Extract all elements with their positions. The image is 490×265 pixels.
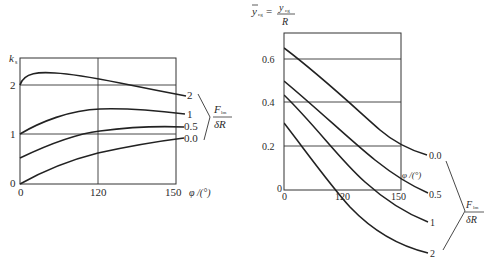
- right-curve-label-0-0: 0.0: [429, 150, 442, 161]
- left-ytick-2: 2: [10, 79, 16, 91]
- right-curve-1: [284, 95, 428, 222]
- right-legend-bracket: [443, 161, 465, 250]
- right-ylabel-numerator: y: [278, 2, 284, 13]
- left-xlabel: φ /(°): [189, 187, 211, 199]
- right-curve-label-2: 2: [430, 248, 435, 259]
- left-curve-0-5: [20, 127, 184, 158]
- right-ytick-0-2: 0.2: [262, 141, 275, 152]
- left-legend-denominator: δR: [214, 118, 226, 130]
- left-legend-bracket: [198, 94, 210, 140]
- right-ytick-0-6: 0.6: [262, 54, 275, 65]
- right-curve-label-0-5: 0.5: [429, 189, 442, 200]
- right-chart: y cg = y cg R 0.6 0.4 0.2 0 0 120 150 φ …: [251, 2, 484, 259]
- right-ylabel-equals: =: [266, 5, 272, 17]
- figure-canvas: k s 2 1 0 0 120 150 φ /(°) 2 1 0.5 0.0 F…: [0, 0, 490, 265]
- left-xtick-120: 120: [90, 186, 107, 198]
- left-legend-numerator: F: [213, 103, 221, 115]
- left-xtick-150: 150: [165, 186, 182, 198]
- right-legend-numerator-sub: lm: [473, 205, 478, 210]
- right-legend-numerator: F: [465, 199, 473, 210]
- right-curve-label-1: 1: [430, 217, 435, 228]
- left-curve-label-0-5: 0.5: [184, 120, 198, 132]
- right-ylabel-denominator: R: [281, 16, 288, 27]
- left-legend-numerator-sub: lm: [221, 110, 226, 115]
- right-ytick-0-4: 0.4: [262, 97, 275, 108]
- right-ylabel-numerator-sub: cg: [285, 8, 290, 13]
- right-legend-denominator: δR: [466, 214, 477, 225]
- right-curve-2: [284, 123, 428, 253]
- right-xlabel: φ /(°): [402, 170, 421, 180]
- right-curve-0-0: [284, 48, 427, 155]
- right-ylabel-lhs-sub: cg: [258, 12, 263, 17]
- left-curve-label-1: 1: [187, 108, 193, 120]
- left-curve-label-2: 2: [187, 89, 193, 101]
- left-ytick-1: 1: [10, 128, 16, 140]
- left-ylabel-sub: s: [15, 59, 18, 65]
- left-chart: k s 2 1 0 0 120 150 φ /(°) 2 1 0.5 0.0 F…: [9, 52, 232, 199]
- left-curve-label-0-0: 0.0: [184, 132, 198, 144]
- right-xtick-120: 120: [335, 191, 350, 202]
- right-xtick-0: 0: [282, 191, 287, 202]
- left-ytick-0: 0: [10, 177, 16, 189]
- left-xtick-0: 0: [18, 186, 24, 198]
- right-xtick-150: 150: [391, 191, 406, 202]
- left-curve-0-0: [20, 138, 184, 184]
- right-ylabel-lhs: y: [251, 5, 257, 17]
- left-curve-2: [20, 73, 186, 96]
